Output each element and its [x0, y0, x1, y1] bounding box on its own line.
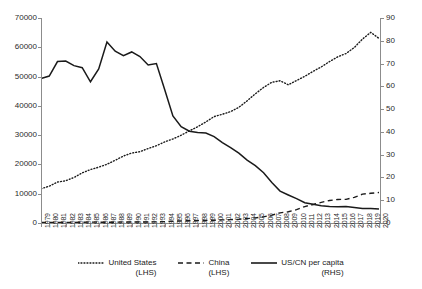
x-axis-tick-mark — [280, 224, 281, 227]
chart-legend: United States (LHS) China (LHS) — [0, 258, 422, 278]
y-axis-right-tick-label: 10 — [386, 196, 395, 204]
y-axis-left-tick-label: 40000 — [15, 102, 37, 110]
x-axis-tick-mark — [288, 224, 289, 227]
y-axis-right-tick-label: 30 — [386, 151, 395, 159]
y-axis-right-tick-mark — [381, 41, 384, 42]
y-axis-right — [380, 18, 381, 224]
y-axis-right-tick-label: 70 — [386, 60, 395, 68]
y-axis-left-tick-mark — [38, 47, 41, 48]
y-axis-right-tick-mark — [381, 177, 384, 178]
x-axis-tick-mark — [264, 224, 265, 227]
y-axis-right-tick-label: 40 — [386, 128, 395, 136]
x-axis-tick-mark — [198, 224, 199, 227]
x-axis-tick-mark — [222, 224, 223, 227]
y-axis-left-tick-mark — [38, 164, 41, 165]
legend-sublabel-text: (RHS) — [281, 268, 343, 278]
x-axis-tick-mark — [123, 224, 124, 227]
y-axis-right-tick-mark — [381, 18, 384, 19]
x-axis-tick-mark — [189, 224, 190, 227]
y-axis-left-tick-label: 60000 — [15, 43, 37, 51]
plot-area — [41, 18, 380, 223]
dotted-line-icon — [78, 258, 104, 268]
x-axis-tick-mark — [239, 224, 240, 227]
x-axis-tick-mark — [313, 224, 314, 227]
x-axis-tick-mark — [272, 224, 273, 227]
y-axis-left-tick-label: 50000 — [15, 73, 37, 81]
y-axis-left-tick-mark — [38, 106, 41, 107]
y-axis-left — [41, 18, 42, 224]
y-axis-right-tick-label: 50 — [386, 105, 395, 113]
legend-label-text: US/CN per capita — [281, 258, 343, 267]
x-axis-tick-mark — [379, 224, 380, 227]
y-axis-right-tick-mark — [381, 200, 384, 201]
legend-label-china: China (LHS) — [208, 258, 229, 278]
y-axis-right-tick-mark — [381, 155, 384, 156]
y-axis-right-tick-mark — [381, 64, 384, 65]
legend-item-us-cn-per-capita: US/CN per capita (RHS) — [251, 258, 343, 278]
legend-item-china: China (LHS) — [178, 258, 229, 278]
legend-label-text: China — [208, 258, 229, 267]
chart-container: 010000200003000040000500006000070000 010… — [0, 0, 422, 289]
x-axis-tick-mark — [99, 224, 100, 227]
x-axis-tick-mark — [66, 224, 67, 227]
y-axis-right-tick-mark — [381, 132, 384, 133]
y-axis-left-tick-mark — [38, 194, 41, 195]
x-axis-tick-mark — [231, 224, 232, 227]
legend-label-text: United States — [108, 258, 156, 267]
plot-svg — [41, 18, 380, 223]
x-axis-tick-mark — [49, 224, 50, 227]
series-line-us-cn-per-capita — [41, 42, 379, 209]
y-axis-left-tick-mark — [38, 18, 41, 19]
x-axis-tick-mark — [132, 224, 133, 227]
legend-item-united-states: United States (LHS) — [78, 258, 156, 278]
y-axis-right-tick-label: 80 — [386, 37, 395, 45]
y-axis-left-tick-label: 20000 — [15, 160, 37, 168]
y-axis-right-tick-mark — [381, 109, 384, 110]
x-axis-tick-mark — [41, 224, 42, 227]
dashed-line-icon — [178, 258, 204, 268]
y-axis-left-tick-mark — [38, 77, 41, 78]
x-axis-tick-mark — [206, 224, 207, 227]
series-line-united-states — [41, 32, 379, 188]
legend-label-us-cn-per-capita: US/CN per capita (RHS) — [281, 258, 343, 278]
x-axis-tick-mark — [165, 224, 166, 227]
legend-sublabel-text: (LHS) — [108, 268, 156, 278]
x-axis-tick-mark — [305, 224, 306, 227]
y-axis-left-tick-label: 30000 — [15, 131, 37, 139]
y-axis-left-tick-mark — [38, 135, 41, 136]
x-axis-tick-label: 2020 — [382, 213, 389, 228]
x-axis-tick-mark — [90, 224, 91, 227]
x-axis-tick-mark — [297, 224, 298, 227]
x-axis-tick-mark — [321, 224, 322, 227]
y-axis-left-tick-label: 70000 — [15, 14, 37, 22]
x-axis-tick-mark — [338, 224, 339, 227]
x-axis-tick-mark — [140, 224, 141, 227]
legend-label-united-states: United States (LHS) — [108, 258, 156, 278]
x-axis-tick-mark — [346, 224, 347, 227]
y-axis-left-tick-label: 0 — [33, 219, 37, 227]
y-axis-left-tick-label: 10000 — [15, 190, 37, 198]
x-axis-tick-mark — [354, 224, 355, 227]
y-axis-right-tick-label: 20 — [386, 173, 395, 181]
x-axis-tick-mark — [57, 224, 58, 227]
x-axis-tick-mark — [173, 224, 174, 227]
x-axis-tick-mark — [330, 224, 331, 227]
x-axis-tick-mark — [74, 224, 75, 227]
legend-sublabel-text: (LHS) — [208, 268, 229, 278]
x-axis-tick-mark — [214, 224, 215, 227]
solid-line-icon — [251, 258, 277, 268]
x-axis-tick-mark — [156, 224, 157, 227]
x-axis-tick-mark — [247, 224, 248, 227]
x-axis-tick-mark — [115, 224, 116, 227]
x-axis-tick-mark — [181, 224, 182, 227]
x-axis-tick-mark — [148, 224, 149, 227]
x-axis-tick-mark — [255, 224, 256, 227]
y-axis-right-tick-label: 60 — [386, 82, 395, 90]
y-axis-right-tick-mark — [381, 86, 384, 87]
x-axis-tick-mark — [82, 224, 83, 227]
x-axis-tick-mark — [363, 224, 364, 227]
x-axis-ticks: 1979198019811982198319841985198619871988… — [41, 224, 381, 254]
y-axis-right-tick-label: 90 — [386, 14, 395, 22]
x-axis-tick-mark — [371, 224, 372, 227]
x-axis-tick-mark — [107, 224, 108, 227]
